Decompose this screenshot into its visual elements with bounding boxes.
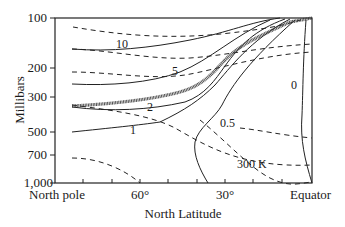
contour-5 [72,20,270,85]
isentrope-300k-line [72,158,140,183]
isentrope-line [72,52,312,77]
y-tick-label: 500 [28,124,48,139]
contour-label-10: 10 [116,37,128,51]
x-tick-label: Equator [290,187,332,202]
contour-label-0: 0 [291,78,297,92]
y-axis: 100 200 300 500 700 1,000 Millibars [12,10,55,190]
isentrope-line [72,44,312,58]
x-tick-label: 60° [131,187,149,202]
tropopause-line [72,18,312,106]
contour-label-1: 1 [130,123,136,137]
y-tick-label: 100 [28,10,48,25]
y-axis-title: Millibars [12,76,27,124]
chart: 100 200 300 500 700 1,000 Millibars Nort… [0,0,345,227]
isentrope-line [73,19,305,36]
contours [72,18,312,184]
y-tick-label: 200 [28,60,48,75]
contour-label-2: 2 [147,100,153,114]
contour-label-300k: 300 K [237,157,267,171]
y-tick-label: 700 [28,147,48,162]
isentrope-300k-line [200,120,312,184]
x-axis: North pole 60° 30° Equator North Latitud… [29,179,332,221]
x-tick-label: North pole [29,187,85,202]
x-axis-title: North Latitude [145,206,222,221]
y-tick-label: 300 [28,89,48,104]
isentrope-line [72,105,312,165]
contour-2 [72,19,285,110]
contour-label-5: 5 [172,64,178,78]
contour-10 [72,18,280,50]
plot-frame [55,18,312,183]
contour-label-0.5: 0.5 [220,116,235,130]
x-tick-label: 30° [216,187,234,202]
